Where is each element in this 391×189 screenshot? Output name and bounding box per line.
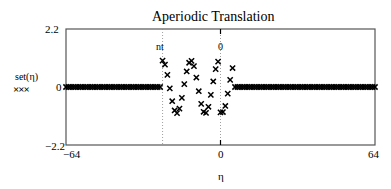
y-tick-zero: 0 (56, 82, 62, 93)
x-axis-label: η (218, 171, 224, 182)
x-tick-min: −64 (63, 149, 80, 160)
x-tick-zero: 0 (218, 149, 224, 160)
y-tick-max: 2.2 (45, 24, 59, 35)
marker-label-zero: 0 (218, 42, 223, 52)
y-tick-min: −2.2 (45, 141, 65, 152)
marker-label-nt: nt (156, 42, 164, 52)
legend-label: set(η) (15, 72, 38, 82)
legend-marker-icon: ××× (13, 84, 29, 95)
chart-title: Aperiodic Translation (152, 10, 275, 24)
x-tick-max: 64 (368, 149, 379, 160)
